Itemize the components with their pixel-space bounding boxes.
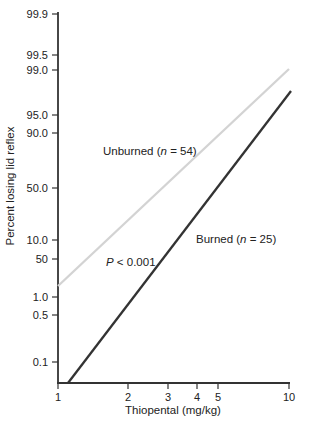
unburned-label-pre: Unburned (: [103, 145, 161, 157]
y-tick-label: 0.1: [33, 356, 48, 368]
axis-titles: Percent losing lid reflex Thiopental (mg…: [4, 126, 221, 416]
y-tick-label: 99.0: [27, 64, 48, 76]
burned-label-post: = 25): [247, 233, 277, 245]
x-tick-label: 3: [165, 391, 171, 403]
y-tick-label: 0.5: [33, 309, 48, 321]
y-tick-label: 10.0: [27, 234, 48, 246]
axes: [57, 12, 290, 383]
y-axis-title: Percent losing lid reflex: [4, 126, 16, 245]
y-tick-labels: 99.9 99.5 99.0 95.0 90.0 50.0 10.0 50 1.…: [27, 8, 48, 368]
series-lines: [58, 69, 291, 383]
x-tick-labels: 1 2 3 4 5 10: [55, 391, 295, 403]
y-tick-label: 95.0: [27, 109, 48, 121]
y-tick-label: 50: [36, 253, 48, 265]
unburned-label: Unburned (n = 54): [103, 145, 197, 157]
x-tick-label: 2: [125, 391, 131, 403]
p-value-label: P < 0.001: [106, 256, 156, 268]
x-tick-label: 1: [55, 391, 61, 403]
burned-label: Burned (n = 25): [196, 233, 276, 245]
x-axis-title: Thiopental (mg/kg): [125, 404, 221, 416]
y-tick-label: 90.0: [27, 127, 48, 139]
p-value-post: < 0.001: [114, 256, 156, 268]
figure: 99.9 99.5 99.0 95.0 90.0 50.0 10.0 50 1.…: [0, 0, 310, 431]
y-tick-label: 50.0: [27, 182, 48, 194]
burned-label-pre: Burned (: [196, 233, 240, 245]
x-tick-label: 10: [283, 391, 295, 403]
y-tick-label: 1.0: [33, 291, 48, 303]
dose-response-chart: 99.9 99.5 99.0 95.0 90.0 50.0 10.0 50 1.…: [0, 0, 310, 431]
x-tick-label: 4: [194, 391, 200, 403]
unburned-line: [58, 69, 289, 286]
unburned-label-post: = 54): [167, 145, 197, 157]
y-tick-label: 99.5: [27, 49, 48, 61]
x-tick-label: 5: [215, 391, 221, 403]
y-tick-label: 99.9: [27, 8, 48, 20]
